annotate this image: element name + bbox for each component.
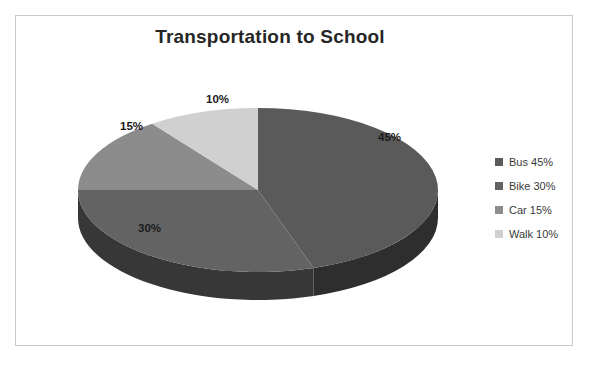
legend-swatch-icon <box>495 206 503 214</box>
legend-item-label: Bike 30% <box>509 180 555 192</box>
pie-chart-svg <box>60 70 460 320</box>
slice-label-car: 15% <box>120 120 143 132</box>
legend-item-bus[interactable]: Bus 45% <box>495 150 575 174</box>
slice-label-walk: 10% <box>206 93 229 105</box>
slice-label-bike: 30% <box>138 222 161 234</box>
legend-swatch-icon <box>495 158 503 166</box>
chart-legend: Bus 45% Bike 30% Car 15% Walk 10% <box>495 150 575 246</box>
legend-swatch-icon <box>495 182 503 190</box>
legend-item-walk[interactable]: Walk 10% <box>495 222 575 246</box>
legend-swatch-icon <box>495 230 503 238</box>
legend-item-label: Car 15% <box>509 204 552 216</box>
legend-item-label: Bus 45% <box>509 156 553 168</box>
chart-title: Transportation to School <box>60 26 480 48</box>
chart-container: Transportation to School 45% 30% 15% 10%… <box>0 0 589 365</box>
slice-label-bus: 45% <box>378 131 401 143</box>
legend-item-bike[interactable]: Bike 30% <box>495 174 575 198</box>
legend-item-label: Walk 10% <box>509 228 558 240</box>
pie-chart-plot-area: 45% 30% 15% 10% <box>60 70 460 320</box>
legend-item-car[interactable]: Car 15% <box>495 198 575 222</box>
